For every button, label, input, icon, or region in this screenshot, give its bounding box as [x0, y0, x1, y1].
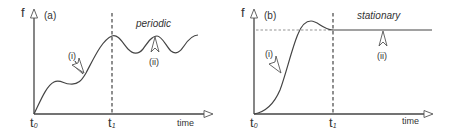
y-axis-arrow-icon [31, 9, 38, 18]
marker-ii-arrow-icon [151, 37, 159, 52]
regime-label: periodic [135, 18, 171, 29]
marker-ii-label: (ii) [149, 57, 159, 67]
marker-i-label: (i) [68, 51, 76, 61]
t1-label: t1 [108, 115, 116, 130]
y-axis-label: f [21, 5, 25, 20]
x-axis-arrow-icon [424, 111, 433, 118]
regime-label: stationary [357, 10, 401, 21]
panel-label: (a) [44, 10, 56, 21]
marker-i-label: (i) [265, 49, 273, 59]
t0-label: t0 [30, 115, 38, 130]
panel-label: (b) [264, 10, 276, 21]
signal-curve [254, 21, 432, 114]
t1-label: t1 [329, 115, 337, 130]
y-axis-arrow-icon [251, 9, 258, 18]
x-axis-label: time [177, 118, 194, 128]
x-axis-label: time [402, 116, 419, 126]
t0-label: t0 [250, 115, 258, 130]
signal-curve [34, 35, 198, 114]
marker-ii-arrow-icon [379, 31, 387, 46]
diagram-canvas: f (a) periodic (i) (ii) time t0 t1 f (b)… [0, 0, 455, 134]
x-axis-arrow-icon [204, 111, 213, 118]
panel-a: f (a) periodic (i) (ii) time t0 t1 [21, 5, 213, 130]
marker-ii-label: (ii) [377, 51, 387, 61]
panel-b: f (b) stationary (i) (ii) time t0 t1 [241, 5, 433, 130]
y-axis-label: f [241, 5, 245, 20]
